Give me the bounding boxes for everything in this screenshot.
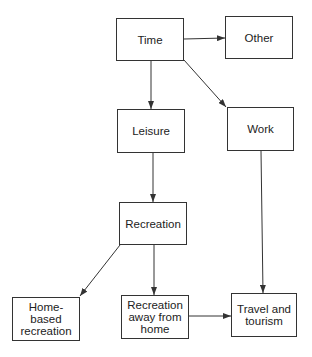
- node-other: Other: [225, 16, 293, 59]
- node-label: Time: [137, 34, 162, 46]
- node-label: Travel and tourism: [234, 303, 294, 327]
- node-recreation: Recreation: [119, 202, 187, 245]
- node-leisure: Leisure: [117, 109, 185, 153]
- node-work: Work: [227, 107, 294, 151]
- node-recreation-away-from-home: Recreation away from home: [121, 295, 189, 339]
- node-time: Time: [116, 18, 184, 61]
- edge-recreation-home: [80, 245, 120, 296]
- edge-time-work: [184, 60, 226, 107]
- node-label: Home-based recreation: [15, 301, 77, 337]
- edge-time-other: [184, 38, 225, 39]
- node-travel-and-tourism: Travel and tourism: [231, 293, 297, 337]
- node-label: Work: [247, 123, 274, 135]
- edge-work-travel: [261, 151, 263, 293]
- node-label: Recreation: [125, 218, 181, 230]
- node-label: Leisure: [132, 125, 170, 137]
- node-label: Recreation away from home: [124, 299, 186, 335]
- node-label: Other: [245, 32, 274, 44]
- node-home-based-recreation: Home-based recreation: [12, 297, 80, 341]
